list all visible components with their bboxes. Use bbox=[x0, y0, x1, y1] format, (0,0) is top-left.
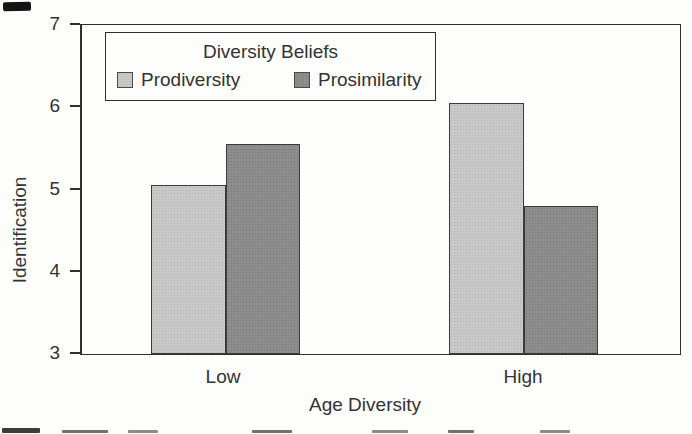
prodiversity-swatch-icon bbox=[117, 72, 133, 88]
y-axis-tick bbox=[70, 352, 80, 354]
scan-artifact-mark bbox=[3, 2, 31, 11]
prosimilarity-swatch-icon bbox=[294, 72, 310, 88]
legend-label-prosimilarity: Prosimilarity bbox=[318, 69, 421, 91]
legend-label-prodiversity: Prodiversity bbox=[141, 69, 240, 91]
bar-high-prosimilarity bbox=[524, 206, 599, 354]
y-axis-tick-label: 5 bbox=[26, 176, 60, 202]
y-axis-tick-label: 3 bbox=[26, 340, 60, 366]
legend-entry-prosimilarity: Prosimilarity bbox=[294, 69, 421, 91]
bar-low-prodiversity bbox=[151, 185, 226, 354]
y-axis-tick bbox=[70, 270, 80, 272]
x-category-label-high: High bbox=[453, 366, 593, 388]
legend: Diversity Beliefs Prodiversity Prosimila… bbox=[105, 32, 436, 101]
y-axis-tick-label: 7 bbox=[26, 11, 60, 37]
bar-low-prosimilarity bbox=[226, 144, 301, 354]
y-axis-tick bbox=[70, 188, 80, 190]
legend-entry-prodiversity: Prodiversity bbox=[117, 69, 240, 91]
x-axis-title: Age Diversity bbox=[66, 394, 664, 416]
y-axis-tick bbox=[70, 23, 80, 25]
x-category-label-low: Low bbox=[153, 366, 293, 388]
bar-chart-figure: Identification 34567 Diversity Beliefs P… bbox=[0, 0, 692, 434]
legend-title: Diversity Beliefs bbox=[106, 41, 435, 63]
y-axis-tick bbox=[70, 105, 80, 107]
bar-high-prodiversity bbox=[449, 103, 524, 354]
y-axis-tick-label: 4 bbox=[26, 258, 60, 284]
y-axis-tick-label: 6 bbox=[26, 93, 60, 119]
